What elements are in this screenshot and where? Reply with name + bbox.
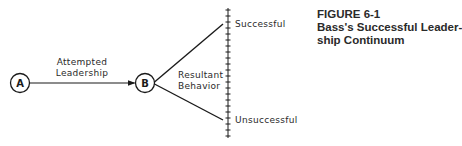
figure-caption: FIGURE 6-1 Bass's Successful Leader- shi… — [317, 8, 462, 47]
node-b: B — [136, 74, 155, 93]
edge-label-leadership: Leadership — [56, 68, 108, 78]
figure-title-line1: Bass's Successful Leader- — [317, 21, 462, 34]
scale-label-successful: Successful — [235, 19, 286, 29]
scale-label-unsuccessful: Unsuccessful — [235, 115, 297, 125]
figure-title-line2: ship Continuum — [317, 34, 462, 47]
continuum-scale — [226, 8, 231, 138]
edge-label-behavior: Behavior — [178, 81, 220, 91]
figure-number: FIGURE 6-1 — [317, 8, 462, 21]
node-b-label: B — [141, 78, 149, 89]
edge-label-attempted: Attempted — [57, 57, 108, 67]
node-a-label: A — [16, 78, 24, 89]
edge-label-resultant: Resultant — [178, 70, 223, 80]
node-a: A — [11, 74, 30, 93]
